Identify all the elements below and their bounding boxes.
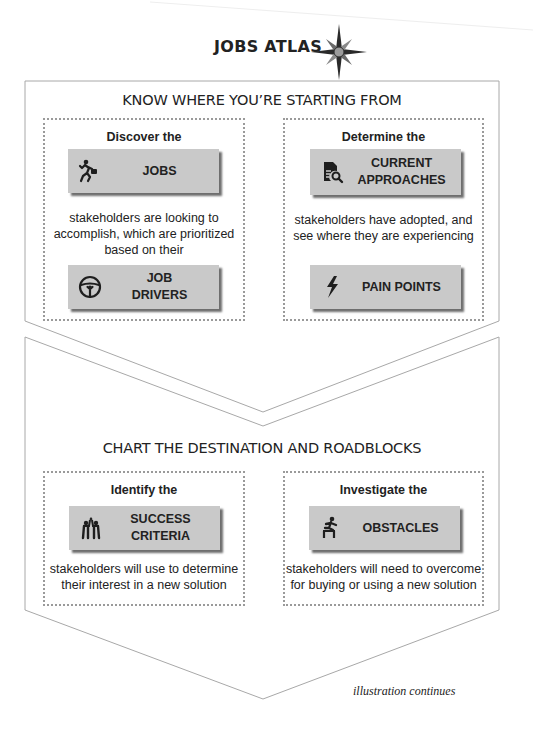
illustration-continues-note: illustration continues xyxy=(353,684,455,699)
card-label: JOBS xyxy=(104,163,215,180)
panel-description: stakeholders are looking to accomplish, … xyxy=(45,210,243,258)
panel-lead: Investigate the xyxy=(285,483,482,497)
hurdle-jumper-icon xyxy=(319,516,343,540)
card-success-criteria: SUCCESS CRITERIA xyxy=(69,506,220,550)
card-label: PAIN POINTS xyxy=(346,279,457,296)
panel-description: stakeholders have adopted, and see where… xyxy=(285,212,482,244)
card-pain-points: PAIN POINTS xyxy=(310,265,461,309)
panel-lead: Discover the xyxy=(45,130,243,144)
card-obstacles: OBSTACLES xyxy=(309,506,460,550)
card-label: SUCCESS CRITERIA xyxy=(105,511,216,545)
panel-description: stakeholders will need to overcome for b… xyxy=(285,561,482,593)
panel-lead: Determine the xyxy=(285,130,482,144)
panel-determine: Determine the CURRENT APPROACHES stakeho… xyxy=(283,118,484,321)
card-job-drivers: JOB DRIVERS xyxy=(68,265,219,309)
card-current-approaches: CURRENT APPROACHES xyxy=(310,149,461,195)
card-jobs: JOBS xyxy=(68,149,219,193)
panel-investigate: Investigate the OBSTACLES stakeholders w… xyxy=(283,471,484,606)
team-celebration-icon xyxy=(79,516,103,540)
chevron-outlines xyxy=(0,0,533,733)
panel-identify: Identify the SUCCESS CRITERIA stakeholde… xyxy=(43,471,245,606)
card-label: JOB DRIVERS xyxy=(104,270,215,304)
steering-wheel-icon xyxy=(78,275,102,299)
document-search-icon xyxy=(320,160,344,184)
section-2-title: CHART THE DESTINATION AND ROADBLOCKS xyxy=(25,440,499,456)
section-1-title: KNOW WHERE YOU’RE STARTING FROM xyxy=(25,92,499,108)
card-label: OBSTACLES xyxy=(345,520,456,537)
card-label: CURRENT APPROACHES xyxy=(346,155,457,189)
panel-description: stakeholders will use to determine their… xyxy=(45,561,243,593)
panel-lead: Identify the xyxy=(45,483,243,497)
running-businessman-icon xyxy=(78,159,102,183)
page-title: JOBS ATLAS xyxy=(214,37,322,56)
compass-rose-icon xyxy=(311,24,367,80)
header: JOBS ATLAS xyxy=(0,20,533,80)
lightning-bolt-icon xyxy=(320,275,344,299)
panel-discover: Discover the JOBS stakeholders are looki… xyxy=(43,118,245,321)
